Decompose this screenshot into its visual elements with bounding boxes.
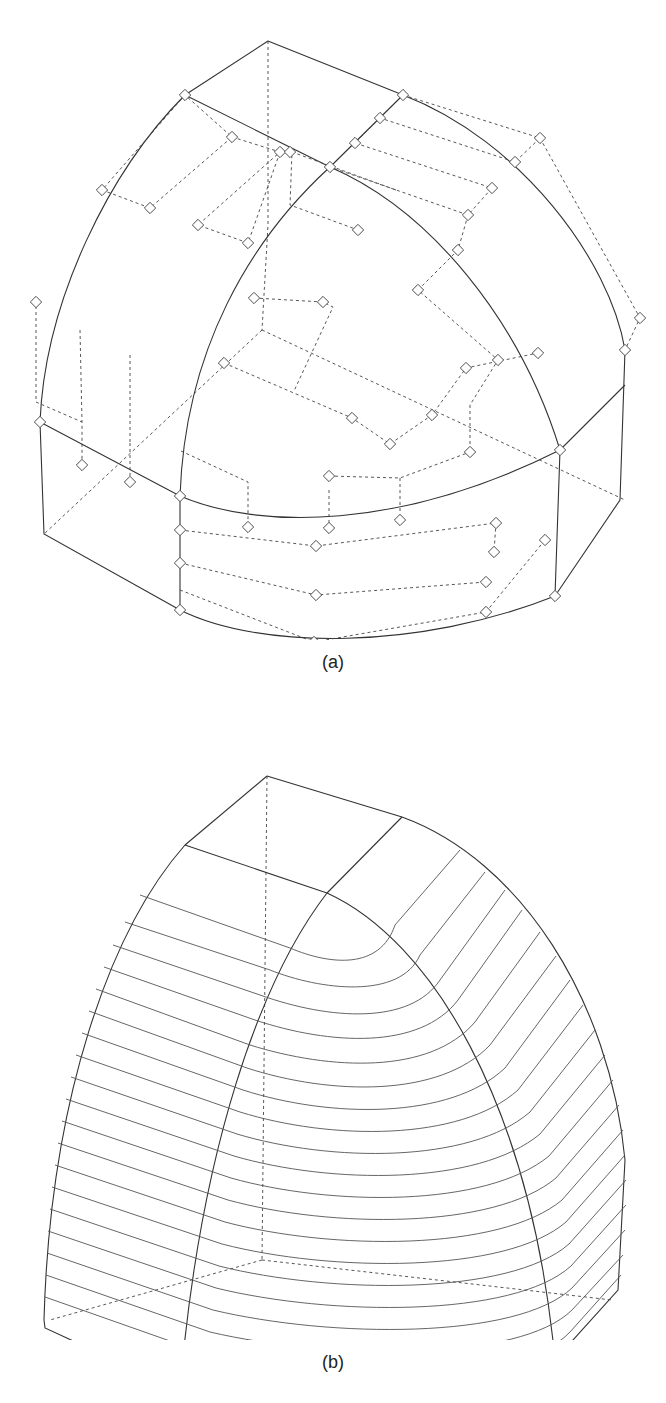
control-net-diagram	[0, 0, 666, 640]
panel-a-label: (a)	[0, 652, 666, 673]
panel-b-label: (b)	[0, 1352, 666, 1373]
panel-b-contours	[0, 700, 666, 1340]
contour-surface-diagram	[0, 700, 666, 1340]
panel-a-wireframe	[0, 0, 666, 640]
control-points	[30, 89, 645, 640]
